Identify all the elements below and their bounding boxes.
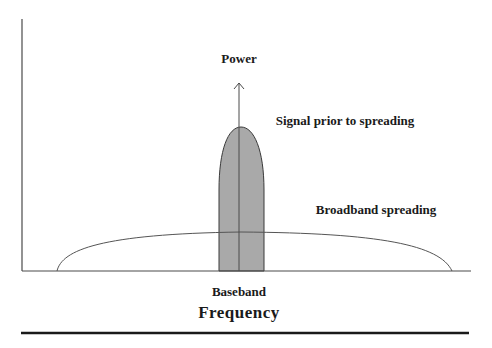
x-axis-label: Frequency: [198, 303, 280, 322]
y-axis-label: Power: [221, 51, 257, 66]
narrow-signal-lobe: [219, 127, 264, 271]
center-frequency-label: Baseband: [212, 284, 267, 299]
broad-signal-label: Broadband spreading: [316, 202, 437, 217]
spread-spectrum-diagram: Power Signal prior to spreading Broadban…: [0, 0, 492, 348]
narrow-signal-label: Signal prior to spreading: [276, 113, 415, 128]
